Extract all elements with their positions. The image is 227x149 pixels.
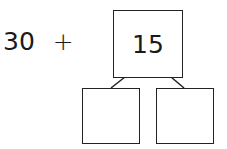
part-box-left[interactable] [82,88,140,144]
whole-box: 15 [113,10,183,78]
whole-value: 15 [132,30,164,59]
part-box-right[interactable] [156,88,214,144]
